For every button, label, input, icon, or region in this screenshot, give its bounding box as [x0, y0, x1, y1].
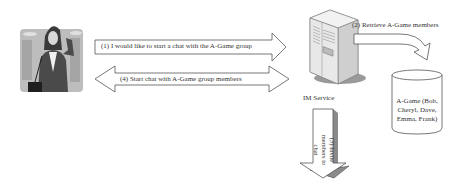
woman-on-phone-icon	[20, 26, 83, 92]
im-group-chat-diagram: (1) I would like to start a chat with th…	[0, 0, 468, 193]
arrow-step2	[354, 34, 430, 60]
database-label: A-Game (Bob, Cheryl, Dave, Emma, Frank)	[392, 97, 442, 124]
step3-label: (3) Invite members to chat	[312, 131, 336, 169]
server-label: IM Service	[303, 94, 334, 102]
database-label-line: Emma, Frank)	[392, 115, 442, 124]
step4-label: (4) Start chat with A-Game group members	[120, 75, 242, 83]
step1-label: (1) I would like to start a chat with th…	[101, 42, 252, 50]
step3-label-line: members to chat	[312, 131, 328, 169]
database-label-line: A-Game (Bob,	[392, 97, 442, 106]
database-label-line: Cheryl, Dave,	[392, 106, 442, 115]
step2-label: (2) Retrieve A-Game members	[352, 21, 439, 29]
step3-label-line: (3) Invite	[328, 131, 336, 169]
